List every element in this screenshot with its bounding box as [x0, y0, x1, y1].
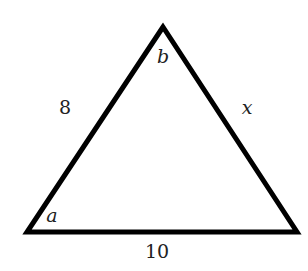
angle-label-a: a	[46, 204, 57, 226]
side-label-left: 8	[59, 96, 71, 118]
side-label-bottom: 10	[145, 240, 169, 262]
side-label-right: x	[242, 96, 253, 118]
angle-label-b: b	[157, 45, 169, 67]
triangle-diagram: b a 8 x 10	[0, 0, 308, 271]
